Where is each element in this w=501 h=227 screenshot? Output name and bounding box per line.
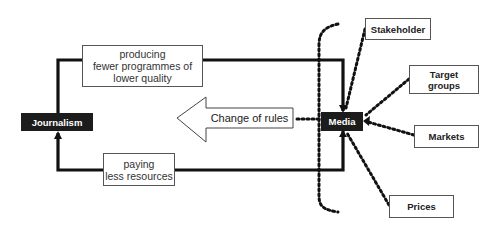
- node-markets-label: Markets: [429, 131, 465, 142]
- node-media-label: Media: [329, 116, 356, 127]
- dotted-link-target-groups: [366, 79, 409, 115]
- edge-label-producing-fewer-programmes: producing fewer programmes of lower qual…: [82, 45, 203, 87]
- dotted-link-markets: [368, 122, 414, 135]
- node-target-groups: Target groups: [409, 65, 479, 94]
- edge-label-paying-less-resources: paying less resources: [103, 153, 175, 186]
- edge-label-text: producing fewer programmes of lower qual…: [93, 48, 192, 84]
- node-stakeholder-label: Stakeholder: [371, 24, 425, 35]
- node-journalism: Journalism: [21, 113, 93, 131]
- change-of-rules-label: Change of rules: [206, 108, 293, 128]
- node-prices: Prices: [389, 195, 454, 218]
- node-stakeholder: Stakeholder: [365, 18, 431, 40]
- dotted-link-prices: [347, 133, 389, 205]
- dotted-link-stakeholder: [346, 29, 365, 108]
- node-prices-label: Prices: [407, 201, 436, 212]
- node-journalism-label: Journalism: [32, 117, 83, 128]
- arrow-tip-media-bottom: [339, 130, 347, 137]
- node-media: Media: [321, 112, 363, 131]
- edge-label-text: paying less resources: [105, 158, 173, 182]
- change-of-rules-text: Change of rules: [211, 112, 289, 124]
- node-markets: Markets: [414, 125, 479, 148]
- arrow-tip-media-right: [363, 116, 370, 126]
- node-target-groups-label: Target groups: [428, 69, 460, 91]
